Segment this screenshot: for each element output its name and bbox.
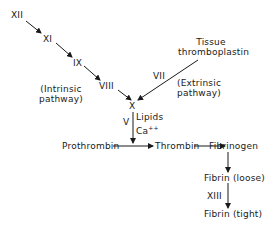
factor-xii: XII [11, 10, 23, 20]
extrinsic-label-line1: (Extrinsic [176, 78, 222, 88]
intrinsic-label-line2: pathway) [38, 94, 84, 104]
fibrin-tight-label: Fibrin (tight) [204, 209, 262, 219]
factor-xiii: XIII [207, 191, 222, 201]
fibrin-loose-label: Fibrin (loose) [204, 173, 265, 183]
extrinsic-pathway-label: (Extrinsic pathway) [176, 78, 222, 98]
arrow-xi-to-ix [56, 43, 72, 57]
factor-vii: VII [153, 71, 165, 81]
factor-xi: XI [43, 34, 52, 44]
extrinsic-label-line2: pathway) [176, 88, 222, 98]
fibrinogen-label: Fibrinogen [209, 141, 258, 151]
calcium-charge: ++ [148, 124, 158, 131]
calcium-label: Ca++ [136, 123, 159, 136]
factor-v: V [123, 117, 129, 127]
arrow-ix-to-viii [84, 66, 100, 80]
factor-ix: IX [73, 58, 82, 68]
tissue-line1: Tissue [178, 37, 244, 47]
tissue-line2: thromboplastin [178, 47, 244, 57]
prothrombin-label: Prothrombin [62, 141, 119, 151]
intrinsic-pathway-label: (Intrinsic pathway) [38, 84, 84, 104]
tissue-thromboplastin-label: Tissue thromboplastin [178, 37, 244, 57]
diagram-arrows [0, 0, 270, 235]
calcium-symbol: Ca [136, 126, 148, 136]
thrombin-label: Thrombin [155, 141, 200, 151]
intrinsic-label-line1: (Intrinsic [38, 84, 84, 94]
arrow-xii-to-xi [26, 21, 41, 33]
factor-x: X [129, 101, 135, 111]
arrow-viii-to-x [118, 90, 131, 100]
factor-viii: VIII [99, 81, 114, 91]
lipids-label: Lipids [136, 112, 163, 122]
